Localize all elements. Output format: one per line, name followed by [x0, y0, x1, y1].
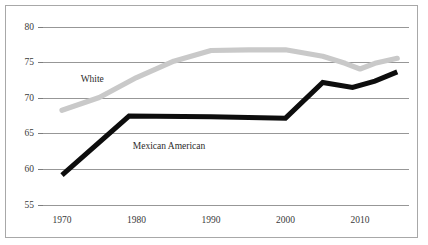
data-series	[62, 50, 397, 175]
series-label-mexican-american: Mexican American	[133, 141, 206, 151]
series-line-white	[62, 50, 397, 111]
x-tick-label: 2000	[276, 215, 295, 225]
x-axis-tick-labels: 19701980199020002010	[53, 215, 370, 225]
x-tick-label: 1990	[202, 215, 221, 225]
y-tick-label: 75	[25, 57, 35, 67]
series-line-mexican-american	[62, 72, 397, 175]
y-tick-label: 60	[25, 164, 35, 174]
axis-tick-marks	[38, 27, 43, 205]
y-tick-label: 65	[25, 128, 35, 138]
chart-figure: 556065707580 19701980199020002010 WhiteM…	[0, 0, 428, 245]
series-label-white: White	[81, 74, 104, 84]
y-axis-tick-labels: 556065707580	[25, 22, 35, 210]
y-tick-label: 80	[25, 22, 35, 32]
line-chart: 556065707580 19701980199020002010 WhiteM…	[0, 0, 428, 245]
x-tick-label: 1980	[127, 215, 146, 225]
x-tick-label: 1970	[53, 215, 72, 225]
y-tick-label: 70	[25, 93, 35, 103]
x-tick-label: 2010	[351, 215, 370, 225]
y-tick-label: 55	[25, 200, 35, 210]
